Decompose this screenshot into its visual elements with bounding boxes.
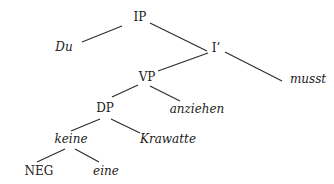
edge-keine-neg xyxy=(37,149,65,162)
edge-ibar-vp xyxy=(158,53,208,71)
edge-ip-du xyxy=(82,26,122,42)
edge-ip-ibar xyxy=(150,23,207,51)
edge-vp-anziehen xyxy=(150,86,180,101)
tree-node-eine: eine xyxy=(93,164,119,178)
tree-node-dp: DP xyxy=(96,101,114,115)
edge-dp-keine xyxy=(71,119,100,131)
tree-node-vp: VP xyxy=(139,70,156,84)
tree-node-ibar: I’ xyxy=(212,41,221,55)
edge-keine-eine xyxy=(75,149,99,162)
tree-node-du: Du xyxy=(55,40,72,54)
edge-ibar-musst xyxy=(225,52,282,81)
edge-vp-dp xyxy=(112,85,138,97)
tree-edges xyxy=(0,0,334,184)
tree-node-ip: IP xyxy=(134,10,147,24)
tree-node-krawatte: Krawatte xyxy=(140,132,196,146)
tree-node-keine: keine xyxy=(54,132,87,146)
tree-node-neg: NEG xyxy=(25,164,54,178)
tree-node-musst: musst xyxy=(290,72,326,86)
edge-dp-krawatte xyxy=(111,119,140,133)
tree-node-anziehen: anziehen xyxy=(170,102,225,116)
